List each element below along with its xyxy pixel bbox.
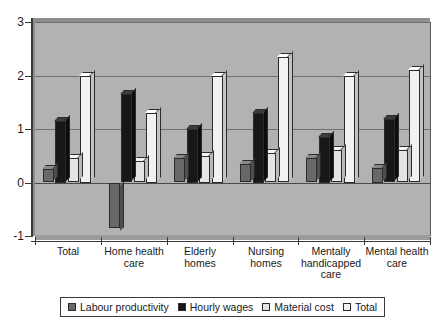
bar bbox=[174, 158, 185, 182]
x-tick bbox=[430, 237, 431, 245]
legend-swatch-icon bbox=[262, 303, 270, 311]
zero-axis-line bbox=[35, 183, 430, 184]
y-tick-0 bbox=[25, 183, 32, 184]
bar-side-face bbox=[66, 115, 70, 181]
bar-side-face bbox=[132, 88, 136, 180]
bar-side-face bbox=[342, 144, 346, 180]
bar-front-face bbox=[372, 168, 383, 183]
bar-side-face bbox=[420, 64, 424, 180]
bar-side-face bbox=[330, 131, 334, 181]
y-tick-label-text: 0 bbox=[2, 177, 24, 189]
x-tick bbox=[233, 237, 234, 245]
x-tick bbox=[101, 237, 102, 245]
gridline-3 bbox=[35, 22, 430, 23]
y-tick-3 bbox=[25, 22, 32, 23]
y-tick-label: 0 bbox=[0, 177, 24, 189]
legend-swatch-icon bbox=[178, 303, 186, 311]
bar-side-face bbox=[395, 113, 399, 180]
bar-front-face bbox=[240, 164, 251, 183]
x-tick bbox=[167, 237, 168, 245]
bar-side-face bbox=[185, 152, 189, 180]
x-axis-category-label: Total bbox=[35, 246, 101, 258]
bar-side-face bbox=[91, 70, 95, 181]
bar-front-face bbox=[121, 94, 132, 182]
bar-side-face bbox=[276, 147, 280, 180]
y-tick-label: -1 bbox=[0, 230, 24, 242]
x-axis bbox=[31, 241, 430, 242]
legend-label: Total bbox=[355, 302, 377, 313]
y-tick-1 bbox=[25, 129, 32, 130]
x-axis-category-label: Mental health care bbox=[364, 246, 430, 269]
y-axis bbox=[31, 18, 33, 237]
x-axis-category-label: Mentally handicapped care bbox=[298, 246, 364, 281]
bar-side-face bbox=[289, 51, 293, 181]
legend-label: Hourly wages bbox=[190, 302, 254, 313]
bar-side-face bbox=[264, 107, 268, 181]
bar-side-face bbox=[223, 70, 227, 181]
bar-front-face bbox=[306, 158, 317, 182]
legend-swatch-icon bbox=[343, 303, 351, 311]
legend-label: Labour productivity bbox=[80, 302, 169, 313]
bar bbox=[109, 183, 120, 229]
bar bbox=[372, 168, 383, 183]
x-tick bbox=[364, 237, 365, 245]
chart-legend: Labour productivityHourly wagesMaterial … bbox=[60, 297, 385, 317]
y-tick-label-text: 3 bbox=[2, 16, 24, 28]
bar bbox=[121, 94, 132, 182]
y-tick-label: 2 bbox=[0, 70, 24, 82]
bar bbox=[43, 169, 54, 182]
bar-side-face bbox=[198, 123, 202, 181]
legend-label: Material cost bbox=[274, 302, 334, 313]
plot-background bbox=[35, 22, 431, 236]
x-tick bbox=[35, 237, 36, 245]
bar-side-face bbox=[317, 152, 321, 180]
bar-side-face bbox=[210, 150, 214, 181]
y-tick-label-text: 1 bbox=[2, 123, 24, 135]
bar bbox=[306, 158, 317, 182]
y-tick--1 bbox=[25, 236, 32, 237]
y-tick-label: 3 bbox=[0, 16, 24, 28]
y-tick-label: 1 bbox=[0, 123, 24, 135]
x-axis-category-label: Elderly homes bbox=[167, 246, 233, 269]
bar-side-face bbox=[157, 107, 161, 181]
legend-item[interactable]: Hourly wages bbox=[178, 302, 254, 313]
legend-item[interactable]: Material cost bbox=[262, 302, 334, 313]
y-tick-2 bbox=[25, 76, 32, 77]
bar-side-face bbox=[120, 181, 124, 231]
x-axis-category-label: Home health care bbox=[101, 246, 167, 269]
bar bbox=[240, 164, 251, 183]
plot-area bbox=[31, 18, 430, 236]
bar-chart: 3210-1 TotalHome health careElderly home… bbox=[0, 0, 440, 328]
legend-swatch-icon bbox=[68, 303, 76, 311]
x-axis-category-label: Nursing homes bbox=[233, 246, 299, 269]
bar-front-face bbox=[174, 158, 185, 182]
bar-front-face bbox=[109, 183, 120, 229]
legend-item[interactable]: Labour productivity bbox=[68, 302, 169, 313]
x-tick bbox=[298, 237, 299, 245]
y-tick-label-text: -1 bbox=[2, 230, 24, 242]
bar-side-face bbox=[355, 70, 359, 181]
bar-front-face bbox=[43, 169, 54, 182]
y-tick-label-text: 2 bbox=[2, 70, 24, 82]
bar-side-face bbox=[408, 144, 412, 180]
legend-item[interactable]: Total bbox=[343, 302, 377, 313]
